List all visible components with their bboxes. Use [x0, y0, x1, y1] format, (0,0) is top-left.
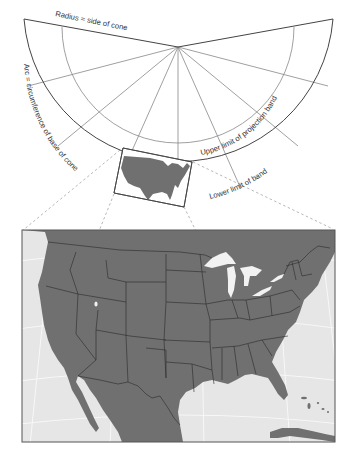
inset-map [114, 148, 192, 207]
label-radius: Radius = side of cone [55, 9, 129, 32]
conic-projection-diagram: Radius = side of cone Arc = circumferenc… [0, 0, 349, 455]
label-lower-band: Lower limit of band [208, 167, 268, 201]
radius-edge-right [178, 19, 333, 47]
great-salt-lake [94, 301, 97, 306]
outer-arc [24, 19, 333, 162]
main-map [10, 230, 349, 445]
